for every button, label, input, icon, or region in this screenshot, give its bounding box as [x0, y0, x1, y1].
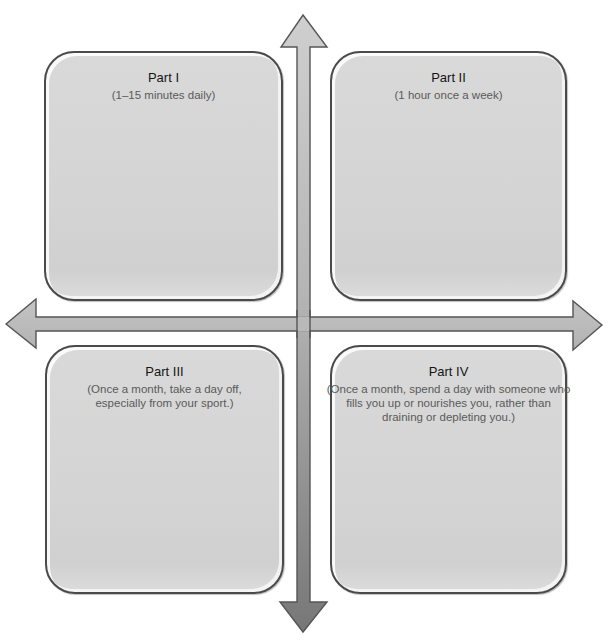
quadrant-subtitle: (Once a month, spend a day with someone … [326, 382, 571, 424]
vertical-shaft-overlap [298, 316, 310, 331]
four-part-quadrant-diagram: Types of renewal: Daily, Weekly, Monthly [0, 0, 616, 640]
quadrant-title: Part III [47, 364, 282, 380]
quadrant-title: Part I [46, 70, 281, 86]
quadrant-subtitle: (1–15 minutes daily) [46, 88, 281, 102]
quadrant-part-1: Part I (1–15 minutes daily) [44, 51, 283, 301]
quadrant-part-3: Part III (Once a month, take a day off, … [45, 345, 284, 594]
quadrant-title: Part IV [332, 364, 565, 380]
quadrant-title: Part II [332, 70, 565, 86]
quadrant-part-4: Part IV (Once a month, spend a day with … [330, 345, 567, 594]
quadrant-part-2: Part II (1 hour once a week) [330, 51, 567, 301]
quadrant-subtitle: (Once a month, take a day off, especiall… [47, 382, 282, 410]
quadrant-subtitle: (1 hour once a week) [332, 88, 565, 102]
